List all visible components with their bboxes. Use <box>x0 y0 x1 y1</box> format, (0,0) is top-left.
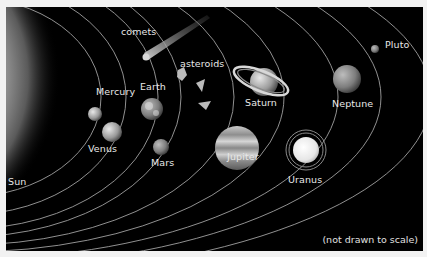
mars <box>153 139 169 155</box>
label-saturn: Saturn <box>245 98 277 108</box>
sun <box>6 7 136 237</box>
solar-system-diagram: Sun Mercury Venus Earth Mars comets aste… <box>6 7 423 251</box>
label-neptune: Neptune <box>332 99 373 109</box>
label-pluto: Pluto <box>385 40 409 50</box>
label-venus: Venus <box>88 144 117 154</box>
label-mercury: Mercury <box>96 87 135 97</box>
label-comets: comets <box>121 27 156 37</box>
jupiter <box>215 126 259 170</box>
label-asteroids: asteroids <box>180 59 224 69</box>
mercury <box>88 107 102 121</box>
label-jupiter: Jupiter <box>227 152 259 162</box>
label-uranus: Uranus <box>288 175 322 185</box>
scale-note: (not drawn to scale) <box>322 234 418 245</box>
uranus <box>286 130 326 170</box>
pluto <box>371 45 379 53</box>
label-mars: Mars <box>151 158 174 168</box>
label-sun: Sun <box>8 177 26 187</box>
diagram-graphics <box>6 7 423 251</box>
neptune <box>333 65 361 93</box>
asteroids <box>177 67 211 110</box>
saturn <box>230 61 291 101</box>
comet <box>144 15 210 60</box>
earth <box>141 98 163 120</box>
venus <box>102 122 122 142</box>
label-earth: Earth <box>140 82 166 92</box>
